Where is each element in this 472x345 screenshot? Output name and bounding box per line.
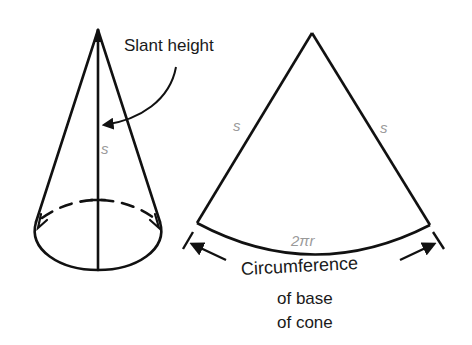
slant-height-arrow (104, 67, 176, 125)
cone-sector-diagram (0, 0, 472, 345)
circumference-caption-line3: of cone (277, 313, 333, 333)
cone-figure (35, 28, 161, 270)
sector-right-s-label: s (380, 119, 388, 136)
sector-figure (197, 33, 430, 255)
circumference-caption-line2: of base (277, 289, 333, 309)
arc-length-label: 2πr (291, 232, 314, 249)
sector-left-s-label: s (233, 117, 241, 134)
cone-s-label: s (101, 140, 109, 157)
slant-height-label: Slant height (124, 36, 214, 56)
